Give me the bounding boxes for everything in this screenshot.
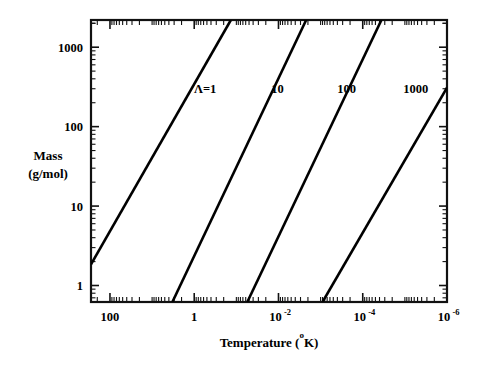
x-tick-label-0: 100: [101, 310, 120, 324]
y-axis-title-line1: Mass: [34, 148, 63, 163]
chart-background: [0, 0, 481, 368]
mass-vs-temperature-chart: Λ=1101001000 100110-210-410-6 1101001000…: [0, 0, 481, 368]
y-axis-title-line2: (g/mol): [28, 166, 68, 181]
y-tick-label-3: 1000: [58, 41, 83, 55]
svg-text:10: 10: [353, 310, 366, 324]
series-label-0: Λ=1: [194, 82, 216, 96]
chart-figure: Λ=1101001000 100110-210-410-6 1101001000…: [0, 0, 481, 368]
svg-text:10: 10: [269, 310, 282, 324]
series-label-2: 100: [337, 82, 356, 96]
svg-text:-4: -4: [368, 307, 376, 317]
svg-text:-2: -2: [284, 307, 291, 317]
svg-text:100: 100: [101, 310, 120, 324]
svg-text:10: 10: [438, 310, 451, 324]
y-tick-label-1: 10: [71, 200, 84, 214]
series-label-1: 10: [271, 82, 284, 96]
y-tick-label-0: 1: [77, 279, 83, 293]
svg-text:1: 1: [191, 310, 197, 324]
y-tick-label-2: 100: [64, 120, 83, 134]
svg-text:-6: -6: [452, 307, 459, 317]
series-label-3: 1000: [403, 82, 428, 96]
x-tick-label-1: 1: [191, 310, 197, 324]
